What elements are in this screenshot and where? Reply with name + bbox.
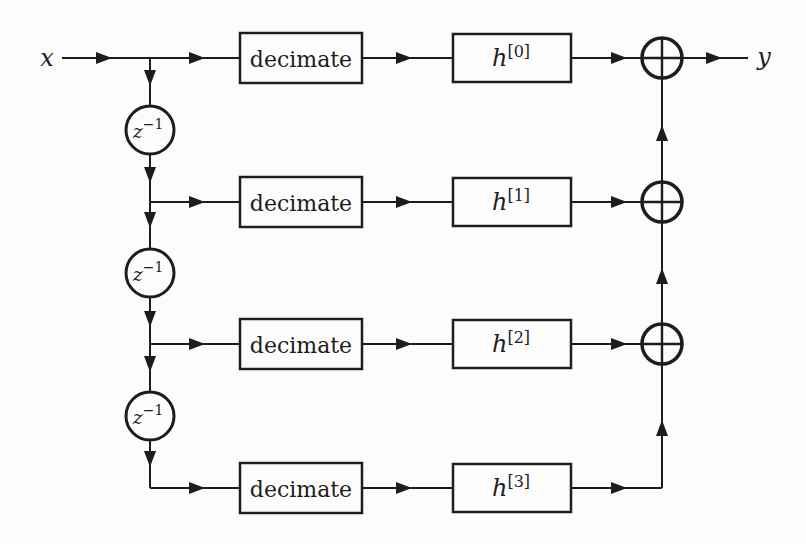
- branch-row-4: decimate h[3]: [150, 463, 662, 513]
- arrowhead-decimate2-out: [396, 196, 412, 208]
- decimate-label-row2: decimate: [250, 191, 352, 216]
- decimate-label-row1: decimate: [250, 47, 352, 72]
- input-label: x: [40, 44, 54, 72]
- arrowhead-filter4-out: [611, 482, 627, 494]
- delay-element-1: z−1: [126, 106, 174, 154]
- arrowhead-trunk-down-1: [144, 70, 156, 86]
- arrowhead-branch3: [189, 338, 205, 350]
- branch-row-2: decimate h[1]: [150, 177, 642, 227]
- arrowhead-input: [96, 52, 112, 64]
- adder-3: [642, 324, 682, 364]
- arrowhead-decimate3-out: [396, 338, 412, 350]
- adder-1: [642, 38, 682, 78]
- branch-row-3: decimate h[2]: [150, 319, 642, 369]
- arrowhead-trunk-down-6: [144, 451, 156, 467]
- delay-element-2: z−1: [126, 249, 174, 297]
- arrowhead-branch4: [189, 482, 205, 494]
- arrowhead-filter2-out: [611, 196, 627, 208]
- arrowhead-branch2: [189, 196, 205, 208]
- polyphase-decimator-diagram: decimate h[0] decimate h[1] decimate h[2…: [0, 0, 806, 544]
- arrowhead-filter1-out: [611, 52, 627, 64]
- arrowhead-trunk-down-3: [144, 212, 156, 228]
- arrowhead-decimate1-out: [396, 52, 412, 64]
- arrowhead-decimate4-out: [396, 482, 412, 494]
- arrowhead-trunk-down-4: [144, 311, 156, 327]
- diagram-canvas: decimate h[0] decimate h[1] decimate h[2…: [0, 0, 806, 544]
- decimate-label-row4: decimate: [250, 477, 352, 502]
- arrowhead-chain-up-2: [656, 268, 668, 284]
- delay-element-3: z−1: [126, 392, 174, 440]
- output-label: y: [756, 43, 771, 71]
- arrowhead-trunk-down-5: [144, 356, 156, 372]
- adder-2: [642, 182, 682, 222]
- arrowhead-chain-up-1: [656, 125, 668, 141]
- decimate-label-row3: decimate: [250, 333, 352, 358]
- arrowhead-chain-up-3: [656, 420, 668, 436]
- arrowhead-filter3-out: [611, 338, 627, 350]
- branch-row-1: decimate h[0]: [96, 33, 642, 83]
- arrowhead-trunk-down-2: [144, 167, 156, 183]
- arrowhead-output: [706, 52, 722, 64]
- arrowhead-branch1: [189, 52, 205, 64]
